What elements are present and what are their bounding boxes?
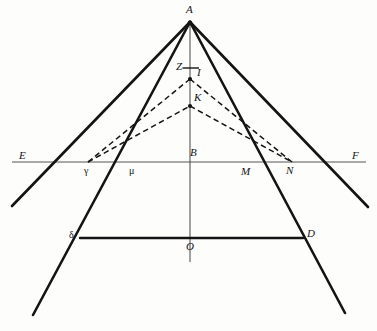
point-label-mu: μ — [129, 166, 134, 176]
point-label-D: D — [307, 228, 315, 239]
point-label-delta: δ — [69, 230, 74, 240]
vertex-dot-K — [188, 104, 192, 108]
point-label-E: E — [19, 150, 26, 161]
vertex-dot-A — [188, 21, 193, 26]
dashed-I-N — [190, 79, 292, 162]
geometry-figure: A Z I K B E F γ μ M N δ O D — [0, 0, 377, 331]
outer-left-ray — [12, 22, 190, 206]
dashed-gamma-K — [88, 106, 190, 162]
point-label-N: N — [286, 165, 293, 176]
point-label-gamma: γ — [84, 166, 88, 176]
point-label-A: A — [186, 4, 193, 15]
point-label-M: M — [241, 166, 250, 177]
point-label-K: K — [194, 92, 201, 103]
inner-left-ray — [33, 22, 190, 315]
figure-canvas — [0, 0, 377, 331]
point-label-F: F — [352, 150, 359, 161]
dashed-gamma-I — [88, 79, 190, 162]
dashed-K-N — [190, 106, 292, 162]
point-label-I: I — [197, 67, 201, 78]
point-label-Z: Z — [176, 61, 182, 72]
vertex-dot-I — [188, 77, 192, 81]
outer-right-ray — [190, 22, 368, 207]
inner-right-ray — [190, 22, 345, 313]
point-label-O: O — [186, 241, 194, 252]
point-label-B: B — [190, 147, 197, 158]
